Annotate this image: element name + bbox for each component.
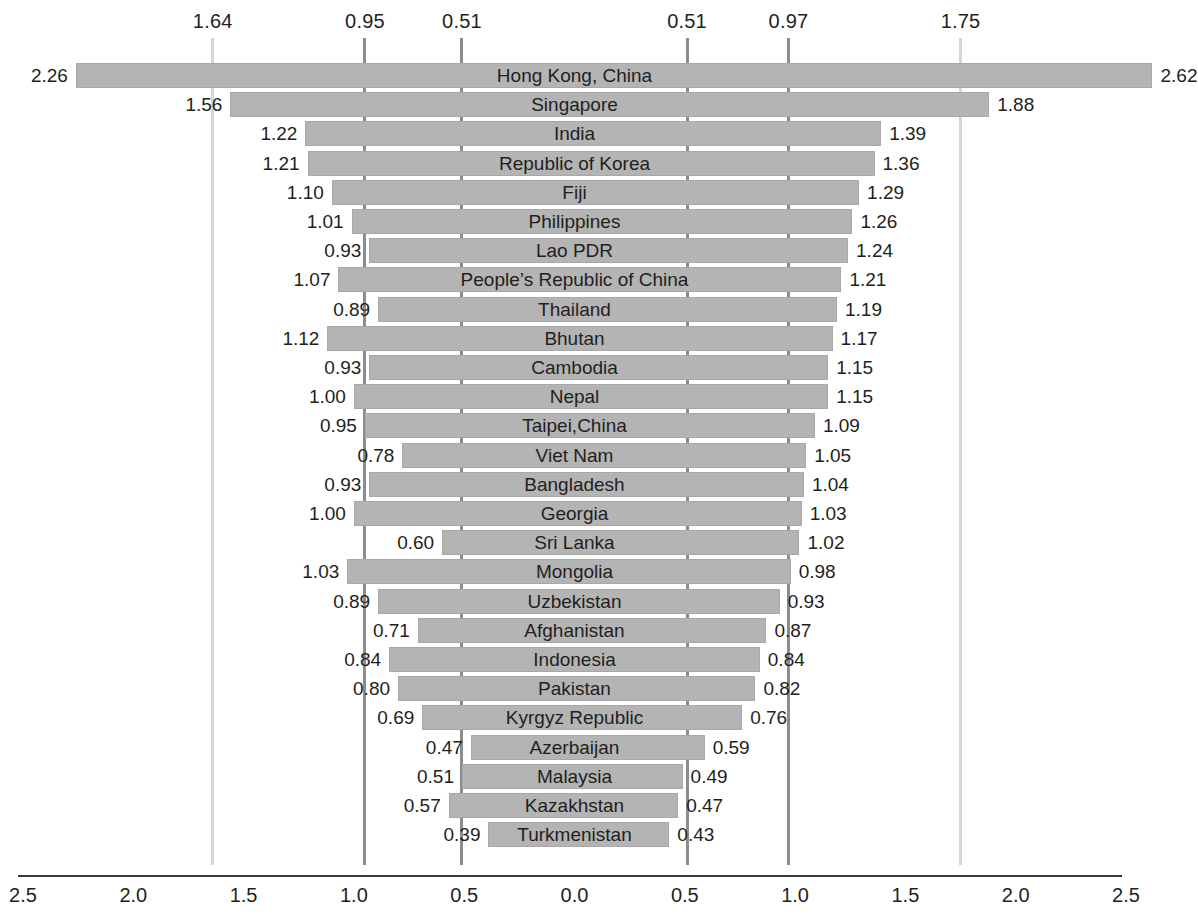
category-label: Afghanistan — [524, 618, 624, 643]
chart-row: Thailand0.891.19 — [0, 295, 1198, 324]
category-label: Bhutan — [544, 326, 604, 351]
chart-row: Sri Lanka0.601.02 — [0, 528, 1198, 557]
chart-row: Mongolia1.030.98 — [0, 557, 1198, 586]
left-value-label: 0.60 — [397, 530, 442, 555]
left-value-label: 0.95 — [320, 413, 365, 438]
right-value-label: 0.76 — [742, 705, 787, 730]
x-axis-line — [18, 875, 1122, 877]
right-value-label: 1.03 — [802, 501, 847, 526]
right-value-label: 1.05 — [806, 443, 851, 468]
left-value-label: 0.39 — [443, 822, 488, 847]
right-value-label: 1.39 — [881, 121, 926, 146]
chart-rows: Hong Kong, China2.262.62Singapore1.561.8… — [0, 0, 1198, 865]
right-value-label: 1.36 — [875, 151, 920, 176]
category-label: Malaysia — [537, 764, 612, 789]
right-value-label: 1.09 — [815, 413, 860, 438]
category-label: Azerbaijan — [530, 735, 620, 760]
category-label: Hong Kong, China — [497, 63, 652, 88]
right-value-label: 1.17 — [833, 326, 878, 351]
right-value-label: 1.04 — [804, 472, 849, 497]
right-value-label: 1.21 — [841, 267, 886, 292]
left-value-label: 0.47 — [426, 735, 471, 760]
diverging-bar-chart: 1.640.950.510.510.971.75 Hong Kong, Chin… — [0, 0, 1198, 919]
right-value-label: 1.15 — [828, 355, 873, 380]
axis-tick-label: 1.5 — [891, 884, 919, 907]
category-label: Taipei,China — [522, 413, 627, 438]
bar — [332, 180, 859, 205]
chart-row: Bhutan1.121.17 — [0, 324, 1198, 353]
chart-row: Georgia1.001.03 — [0, 499, 1198, 528]
left-value-label: 0.93 — [324, 355, 369, 380]
category-label: Pakistan — [538, 676, 611, 701]
bar — [442, 530, 799, 555]
category-label: Uzbekistan — [528, 589, 622, 614]
left-value-label: 0.57 — [404, 793, 449, 818]
chart-row: Kazakhstan0.570.47 — [0, 791, 1198, 820]
left-value-label: 0.89 — [333, 589, 378, 614]
category-label: India — [554, 121, 595, 146]
category-label: Philippines — [529, 209, 621, 234]
chart-row: India1.221.39 — [0, 119, 1198, 148]
right-value-label: 0.59 — [705, 735, 750, 760]
right-value-label: 2.62 — [1152, 63, 1197, 88]
category-label: Indonesia — [533, 647, 615, 672]
category-label: Singapore — [531, 92, 618, 117]
axis-tick-label: 1.0 — [781, 884, 809, 907]
category-label: Sri Lanka — [534, 530, 614, 555]
left-value-label: 1.56 — [185, 92, 230, 117]
axis-tick-label: 0.0 — [561, 884, 589, 907]
right-value-label: 1.15 — [828, 384, 873, 409]
chart-row: Afghanistan0.710.87 — [0, 616, 1198, 645]
right-value-label: 0.93 — [780, 589, 825, 614]
chart-row: Uzbekistan0.890.93 — [0, 587, 1198, 616]
left-value-label: 1.07 — [293, 267, 338, 292]
left-value-label: 1.01 — [307, 209, 352, 234]
axis-tick-label: 0.5 — [671, 884, 699, 907]
chart-row: Viet Nam0.781.05 — [0, 441, 1198, 470]
left-value-label: 0.93 — [324, 472, 369, 497]
axis-tick-label: 2.5 — [9, 884, 37, 907]
left-value-label: 1.00 — [309, 384, 354, 409]
chart-row: Pakistan0.800.82 — [0, 674, 1198, 703]
left-value-label: 2.26 — [31, 63, 76, 88]
right-value-label: 1.02 — [800, 530, 845, 555]
left-value-label: 0.80 — [353, 676, 398, 701]
left-value-label: 1.10 — [287, 180, 332, 205]
axis-tick-label: 2.0 — [119, 884, 147, 907]
left-value-label: 1.22 — [260, 121, 305, 146]
right-value-label: 0.43 — [669, 822, 714, 847]
category-label: Kyrgyz Republic — [506, 705, 643, 730]
chart-row: Malaysia0.510.49 — [0, 762, 1198, 791]
chart-row: Republic of Korea1.211.36 — [0, 149, 1198, 178]
left-value-label: 0.69 — [377, 705, 422, 730]
chart-row: Turkmenistan0.390.43 — [0, 820, 1198, 849]
chart-row: Hong Kong, China2.262.62 — [0, 61, 1198, 90]
chart-row: Philippines1.011.26 — [0, 207, 1198, 236]
category-label: People’s Republic of China — [461, 267, 689, 292]
right-value-label: 0.82 — [755, 676, 800, 701]
left-value-label: 1.00 — [309, 501, 354, 526]
category-label: Cambodia — [531, 355, 618, 380]
axis-tick-label: 2.5 — [1112, 884, 1140, 907]
chart-row: Nepal1.001.15 — [0, 382, 1198, 411]
right-value-label: 0.49 — [683, 764, 728, 789]
chart-row: Indonesia0.840.84 — [0, 645, 1198, 674]
right-value-label: 1.24 — [848, 238, 893, 263]
chart-row: Singapore1.561.88 — [0, 90, 1198, 119]
category-label: Georgia — [541, 501, 609, 526]
category-label: Lao PDR — [536, 238, 613, 263]
chart-row: Fiji1.101.29 — [0, 178, 1198, 207]
left-value-label: 1.03 — [302, 559, 347, 584]
left-value-label: 0.89 — [333, 297, 378, 322]
chart-row: Azerbaijan0.470.59 — [0, 733, 1198, 762]
axis-tick-label: 0.5 — [450, 884, 478, 907]
axis-tick-label: 1.0 — [340, 884, 368, 907]
right-value-label: 0.87 — [766, 618, 811, 643]
left-value-label: 0.84 — [344, 647, 389, 672]
category-label: Nepal — [550, 384, 600, 409]
left-value-label: 0.51 — [417, 764, 462, 789]
category-label: Mongolia — [536, 559, 613, 584]
right-value-label: 0.98 — [791, 559, 836, 584]
category-label: Bangladesh — [524, 472, 624, 497]
category-label: Republic of Korea — [499, 151, 650, 176]
